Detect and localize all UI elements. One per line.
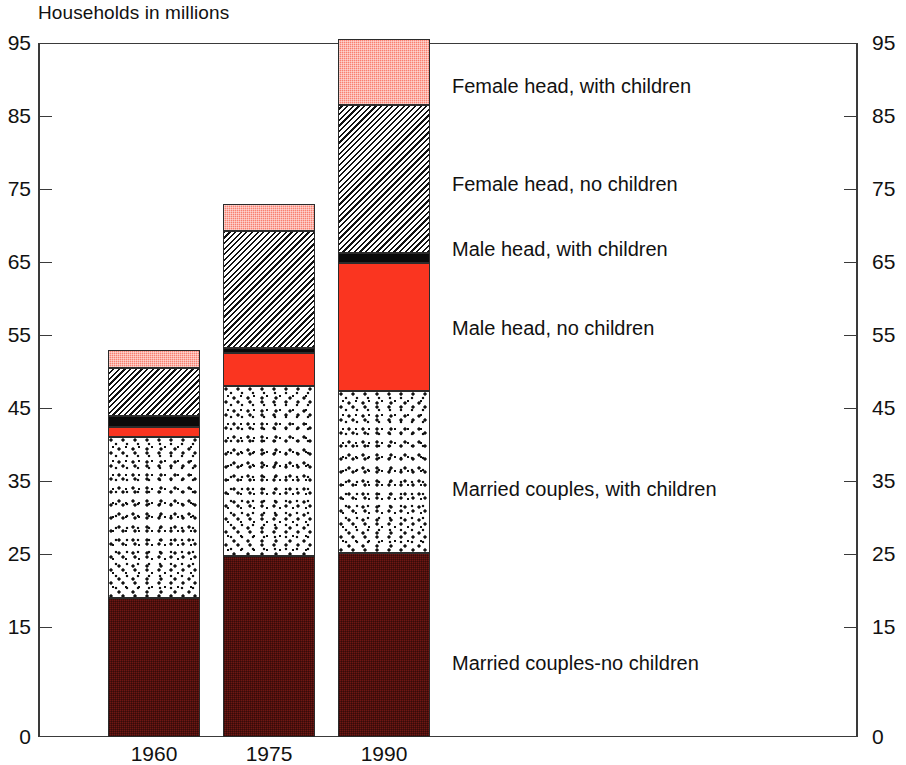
y-axis-label-left: 75 (8, 178, 31, 199)
bar-segment[interactable] (338, 253, 430, 263)
y-axis-label-right: 95 (872, 32, 895, 53)
y-tick-left (38, 116, 52, 117)
bar-segment[interactable] (108, 350, 200, 368)
y-axis-label-left: 15 (8, 616, 31, 637)
y-tick-right (844, 262, 858, 263)
bar-segment[interactable] (223, 348, 315, 354)
bar-segment[interactable] (223, 556, 315, 737)
y-axis-label-left: 0 (19, 726, 31, 747)
y-tick-right (844, 554, 858, 555)
y-tick-right (844, 408, 858, 409)
y-axis-label-right: 0 (872, 726, 884, 747)
bar-segment[interactable] (108, 437, 200, 598)
x-axis-label-1990: 1990 (338, 742, 430, 765)
legend-label: Male head, with children (452, 239, 668, 259)
y-axis-label-left: 85 (8, 105, 31, 126)
bar-1975[interactable] (223, 43, 315, 737)
y-tick-right (844, 481, 858, 482)
y-axis-label-right: 35 (872, 470, 895, 491)
page-title: Households in millions (38, 2, 229, 24)
y-axis-label-left: 95 (8, 32, 31, 53)
y-axis-label-right: 25 (872, 543, 895, 564)
bar-segment[interactable] (338, 105, 430, 253)
x-axis-label-1960: 1960 (108, 742, 200, 765)
y-tick-left (38, 189, 52, 190)
y-tick-left (38, 481, 52, 482)
y-axis-label-left: 45 (8, 397, 31, 418)
y-tick-right (844, 627, 858, 628)
y-axis-label-right: 75 (872, 178, 895, 199)
y-axis-label-right: 45 (872, 397, 895, 418)
y-tick-left (38, 262, 52, 263)
bar-segment[interactable] (338, 553, 430, 737)
bar-segment[interactable] (108, 416, 200, 427)
bar-segment[interactable] (338, 39, 430, 105)
y-axis-label-right: 65 (872, 251, 895, 272)
bar-segment[interactable] (108, 598, 200, 737)
bar-segment[interactable] (223, 386, 315, 555)
y-axis-label-left: 65 (8, 251, 31, 272)
y-tick-left (38, 554, 52, 555)
bar-1990[interactable] (338, 43, 430, 737)
y-tick-right (844, 116, 858, 117)
y-axis-label-left: 35 (8, 470, 31, 491)
y-axis-label-right: 85 (872, 105, 895, 126)
legend-label: Married couples, with children (452, 479, 717, 499)
y-axis-label-left: 25 (8, 543, 31, 564)
y-tick-right (844, 335, 858, 336)
bar-segment[interactable] (223, 353, 315, 386)
bar-segment[interactable] (108, 427, 200, 438)
bar-segment[interactable] (108, 368, 200, 415)
y-axis-label-right: 55 (872, 324, 895, 345)
bar-1960[interactable] (108, 43, 200, 737)
y-axis-label-right: 15 (872, 616, 895, 637)
legend-label: Married couples-no children (452, 653, 699, 673)
bar-segment[interactable] (338, 263, 430, 391)
legend-label: Female head, with children (452, 76, 691, 96)
legend-label: Female head, no children (452, 174, 678, 194)
bar-segment[interactable] (223, 231, 315, 348)
y-tick-right (844, 189, 858, 190)
y-tick-left (38, 408, 52, 409)
y-tick-left (38, 335, 52, 336)
legend-label: Male head, no children (452, 318, 654, 338)
bar-segment[interactable] (338, 391, 430, 553)
bar-segment[interactable] (223, 204, 315, 231)
y-tick-left (38, 627, 52, 628)
y-axis-label-left: 55 (8, 324, 31, 345)
x-axis-label-1975: 1975 (223, 742, 315, 765)
